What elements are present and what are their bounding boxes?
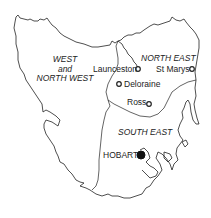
east-coast-islands <box>164 140 188 162</box>
region-label-west-line1: WEST <box>36 55 94 64</box>
town-label-launceston: Launceston <box>93 65 137 74</box>
tasmania-map <box>0 0 211 218</box>
town-label-hobart: HOBART <box>103 151 138 160</box>
region-label-west-line3: NORTH WEST <box>36 74 94 83</box>
ross-marker <box>147 102 152 107</box>
coastline <box>14 15 199 198</box>
st-marys-marker <box>190 67 195 72</box>
town-label-st-marys: St Marys <box>156 65 190 74</box>
deloraine-marker <box>117 82 122 87</box>
region-label-west-line2: and <box>36 65 94 74</box>
region-label-north-east: NORTH EAST <box>141 54 196 63</box>
region-label-west: WEST and NORTH WEST <box>36 55 94 83</box>
town-label-deloraine: Deloraine <box>124 80 160 89</box>
region-label-south-east: SOUTH EAST <box>118 128 172 137</box>
town-label-ross: Ross <box>127 98 146 107</box>
